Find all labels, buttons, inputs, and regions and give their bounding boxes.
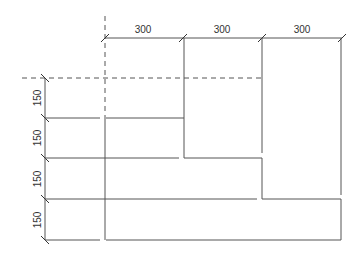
dimension-label-h3: 300 <box>294 24 311 35</box>
dimension-label-v1: 150 <box>32 89 43 106</box>
dimension-label-h2: 300 <box>214 24 231 35</box>
dimension-label-h1: 300 <box>135 24 152 35</box>
top-dimension-chain: 300 300 300 <box>101 24 346 42</box>
stepped-outline <box>45 38 341 240</box>
dimension-label-v2: 150 <box>32 129 43 146</box>
dimension-label-v4: 150 <box>32 211 43 228</box>
dimension-drawing: 300 300 300 150 150 150 150 <box>0 0 361 258</box>
dimension-label-v3: 150 <box>32 170 43 187</box>
left-dimension-chain: 150 150 150 150 <box>32 74 49 244</box>
